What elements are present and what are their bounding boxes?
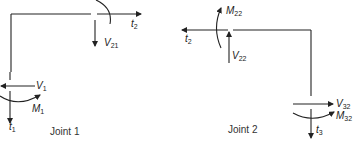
- label-t2-joint1: t2: [131, 19, 138, 30]
- label-v21: V21: [104, 38, 118, 49]
- label-m22: M22: [226, 6, 242, 17]
- frame-diagram: [0, 0, 355, 144]
- m32-arrow: [293, 112, 334, 118]
- caption-joint-2: Joint 2: [228, 125, 257, 135]
- label-v22: V22: [232, 51, 246, 62]
- joint-1-group: [0, 0, 141, 123]
- label-m1: M1: [32, 104, 44, 115]
- label-v32: V32: [336, 99, 350, 110]
- caption-joint-1: Joint 1: [50, 127, 79, 137]
- label-v1: V1: [36, 81, 47, 92]
- moment-arc: [96, 0, 110, 24]
- label-t3: t3: [316, 125, 323, 136]
- label-m32: M32: [336, 111, 352, 122]
- label-t1: t1: [9, 122, 16, 133]
- m1-arrow: [0, 95, 40, 102]
- label-t2-joint2: t2: [185, 34, 192, 45]
- joint-2-group: [182, 8, 334, 138]
- m22-arrow: [217, 8, 222, 48]
